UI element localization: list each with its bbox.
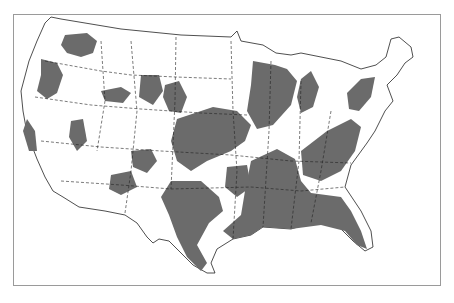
- map-frame: [13, 14, 441, 286]
- us-map: [14, 15, 442, 287]
